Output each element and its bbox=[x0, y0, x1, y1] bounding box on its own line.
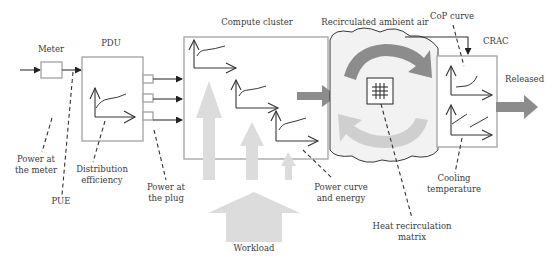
pdu-box bbox=[82, 57, 143, 141]
pdu-label: PDU bbox=[101, 38, 121, 48]
pdu-node: PDU bbox=[82, 38, 182, 141]
meter-node: Meter bbox=[38, 44, 65, 78]
annotation-heat-recirculation: Heat recirculation matrix bbox=[372, 221, 452, 242]
annotation-distribution-efficiency: Distribution efficiency bbox=[76, 164, 128, 185]
annotation-cop-curve: CoP curve bbox=[430, 11, 474, 21]
workload-arrow bbox=[208, 192, 300, 242]
annotation-text: matrix bbox=[398, 232, 426, 242]
annotation-text: Distribution bbox=[76, 164, 128, 174]
compute-cluster-label: Compute cluster bbox=[221, 17, 294, 27]
annotation-text: the plug bbox=[148, 193, 184, 203]
annotation-text: Power at bbox=[17, 154, 56, 164]
annotation-power-at-meter: Power at the meter bbox=[15, 154, 58, 175]
leader-power-at-plug bbox=[154, 130, 166, 180]
annotation-cooling-temperature: Cooling temperature bbox=[427, 173, 481, 194]
annotation-text: and energy bbox=[317, 193, 366, 203]
plug-socket-3 bbox=[143, 112, 153, 120]
annotation-text: the meter bbox=[15, 165, 58, 175]
meter-box bbox=[41, 62, 62, 78]
annotation-pue: PUE bbox=[52, 196, 71, 206]
crac-node: CRAC bbox=[437, 36, 509, 147]
ambient-air-cloud: Recirculated ambient air bbox=[321, 17, 438, 162]
compute-cluster-node: Compute cluster bbox=[184, 17, 337, 180]
released-label: Released bbox=[505, 74, 545, 84]
released-node: Released bbox=[496, 74, 545, 119]
plug-socket-2 bbox=[143, 94, 153, 102]
annotation-text: CoP curve bbox=[430, 11, 474, 21]
annotation-power-at-plug: Power at the plug bbox=[147, 182, 186, 203]
annotation-text: Heat recirculation bbox=[372, 221, 452, 231]
crac-label: CRAC bbox=[483, 36, 509, 46]
ambient-air-label: Recirculated ambient air bbox=[321, 17, 429, 27]
heat-recirculation-matrix-icon bbox=[367, 78, 393, 104]
workload-label: Workload bbox=[234, 243, 275, 253]
annotation-text: Cooling bbox=[437, 173, 471, 183]
meter-label: Meter bbox=[38, 44, 65, 54]
annotation-text: Power curve bbox=[314, 182, 368, 192]
plug-socket-1 bbox=[143, 75, 153, 83]
leader-power-at-meter bbox=[42, 118, 52, 152]
annotation-text: Power at bbox=[147, 182, 186, 192]
annotation-text: efficiency bbox=[81, 175, 123, 185]
annotation-text: temperature bbox=[427, 184, 481, 194]
released-arrow bbox=[496, 95, 538, 119]
annotation-text: PUE bbox=[52, 196, 71, 206]
energy-flow-diagram: Meter PDU Compute cluster bbox=[0, 0, 556, 265]
workload-node: Workload bbox=[208, 192, 300, 253]
leader-pue bbox=[62, 72, 73, 195]
annotation-power-curve: Power curve and energy bbox=[314, 182, 368, 203]
